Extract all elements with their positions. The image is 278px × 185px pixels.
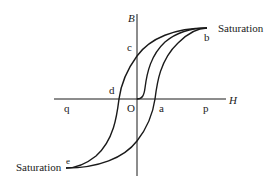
hysteresis-diagram: B H O c d a p q b e Saturation Saturatio… [0, 0, 278, 185]
point-label-q: q [64, 102, 70, 114]
saturation-bottom-label: Saturation [16, 161, 62, 173]
saturation-top-label: Saturation [218, 22, 264, 34]
h-axis-label: H [228, 94, 238, 106]
point-label-p: p [203, 102, 209, 114]
point-label-a: a [159, 102, 164, 114]
point-label-d: d [109, 84, 115, 96]
point-label-b: b [204, 31, 210, 43]
origin-label: O [127, 102, 135, 114]
point-label-e: e [66, 156, 70, 166]
b-axis-label: B [128, 12, 135, 24]
point-label-c: c [127, 41, 132, 53]
initial-magnetization-curve [137, 28, 207, 99]
